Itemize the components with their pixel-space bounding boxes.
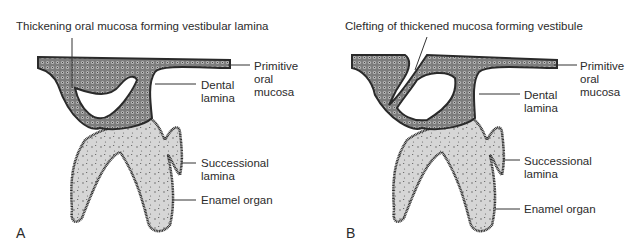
primitive-oral-mucosa-label-2: oral <box>580 73 599 85</box>
panel-b: Clefting of thickened mucosa forming ves… <box>317 0 634 251</box>
panel-a: Thickening oral mucosa forming vestibula… <box>0 0 317 251</box>
dental-lamina-label-1: Dental <box>524 89 557 101</box>
successional-lamina-label-2: lamina <box>524 168 558 180</box>
tooth-bud-diagram-a <box>0 0 317 251</box>
enamel-organ-label: Enamel organ <box>201 194 273 206</box>
primitive-oral-mucosa-label-2: oral <box>254 73 273 85</box>
dental-lamina-label-1: Dental <box>201 79 234 91</box>
panel-letter-b: B <box>346 225 355 241</box>
primitive-oral-mucosa-label-3: mucosa <box>254 86 294 98</box>
successional-lamina-label-2: lamina <box>201 170 235 182</box>
panel-letter-a: A <box>16 225 25 241</box>
primitive-oral-mucosa-label-1: Primitive <box>580 60 624 72</box>
vestibular-lamina-label: Thickening oral mucosa forming vestibula… <box>16 20 268 32</box>
vestibule-cleft-label: Clefting of thickened mucosa forming ves… <box>345 20 583 32</box>
successional-lamina-label-1: Successional <box>201 157 269 169</box>
primitive-oral-mucosa-label-3: mucosa <box>580 86 620 98</box>
successional-lamina-label-1: Successional <box>524 155 592 167</box>
dental-lamina-label-2: lamina <box>524 102 558 114</box>
dental-lamina-label-2: lamina <box>201 92 235 104</box>
primitive-oral-mucosa-label-1: Primitive <box>254 60 298 72</box>
enamel-organ-label: Enamel organ <box>524 203 596 215</box>
